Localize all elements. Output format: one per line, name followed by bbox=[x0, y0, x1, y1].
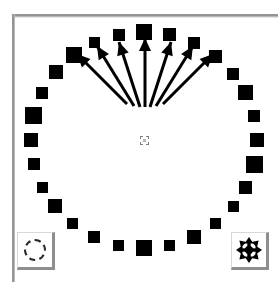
ring-square[interactable] bbox=[239, 181, 252, 194]
arrow-shaft bbox=[77, 54, 127, 104]
ring-square[interactable] bbox=[227, 68, 239, 80]
ring-square[interactable] bbox=[187, 230, 201, 244]
move-tool-button[interactable] bbox=[231, 232, 269, 270]
ring-square[interactable] bbox=[238, 85, 253, 100]
ring-square[interactable] bbox=[209, 50, 221, 62]
ring-square[interactable] bbox=[67, 218, 78, 229]
ring-square[interactable] bbox=[210, 218, 221, 229]
ring-square[interactable] bbox=[28, 158, 40, 170]
ring-square[interactable] bbox=[89, 37, 100, 48]
ring-square[interactable] bbox=[136, 240, 152, 256]
dashed-circle-icon bbox=[18, 233, 52, 267]
ring-square[interactable] bbox=[188, 37, 200, 49]
move-cross-arrows-icon bbox=[232, 233, 266, 267]
ring-square[interactable] bbox=[138, 26, 151, 39]
arrow-head bbox=[117, 42, 128, 56]
selection-handle[interactable] bbox=[140, 136, 149, 145]
ring-square[interactable] bbox=[24, 133, 38, 147]
ring-square[interactable] bbox=[250, 133, 264, 147]
arrow-head bbox=[161, 42, 172, 56]
arrow-shaft bbox=[150, 42, 171, 107]
select-tool-button[interactable] bbox=[17, 232, 55, 270]
ring-square[interactable] bbox=[113, 240, 124, 251]
arrow-shaft bbox=[97, 46, 134, 106]
simulation-canvas[interactable] bbox=[15, 18, 278, 282]
ring-square[interactable] bbox=[113, 29, 125, 41]
ring-square[interactable] bbox=[37, 182, 48, 193]
ring-square[interactable] bbox=[88, 231, 100, 243]
app-window bbox=[0, 0, 278, 282]
ring-square[interactable] bbox=[25, 107, 42, 124]
ring-square[interactable] bbox=[248, 110, 260, 122]
ring-square[interactable] bbox=[48, 199, 62, 213]
ring-square[interactable] bbox=[49, 65, 63, 79]
ring-square[interactable] bbox=[228, 201, 239, 212]
arrow-shaft bbox=[163, 54, 213, 104]
ring-square[interactable] bbox=[164, 240, 175, 251]
ring-square[interactable] bbox=[66, 47, 82, 63]
ring-square[interactable] bbox=[164, 29, 175, 40]
arrow-shaft bbox=[156, 46, 193, 106]
ring-square[interactable] bbox=[246, 156, 263, 173]
ring-square[interactable] bbox=[36, 87, 48, 99]
arrow-shaft bbox=[119, 42, 140, 107]
